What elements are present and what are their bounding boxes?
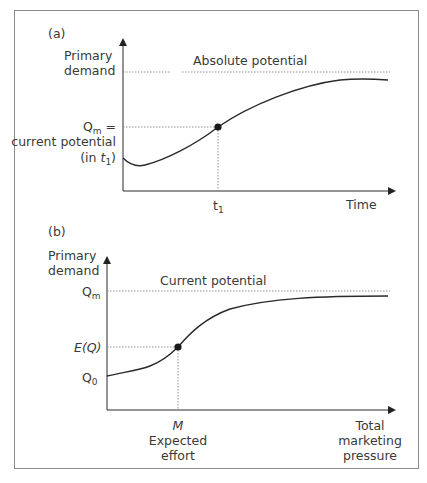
x-label-total: Total [330,418,410,433]
current-potential-desc: current potential [11,134,116,149]
q0-axis-label: Q0 [82,370,98,385]
panel-a-y-label-line1: Primary [64,48,112,63]
expected-label: Expected [143,433,213,448]
in-t1-desc: (in t1) [80,150,116,165]
panel-a-y-label-line2: demand [64,63,115,78]
t1-axis-label: t1 [213,198,224,213]
x-label-marketing: marketing [330,433,410,448]
panel-a-demand-curve [123,79,388,166]
absolute-potential-label: Absolute potential [193,53,307,68]
expected-effort-point [174,343,181,350]
qm-equals-label: Qm = [83,119,116,134]
eq-axis-label: E(Q) [74,340,102,355]
qm-axis-label: Qm [82,284,101,299]
time-axis-label: Time [346,197,377,212]
t1-point [214,123,221,130]
panel-a-tag: (a) [48,26,65,41]
panel-b-response-curve [107,296,388,376]
current-potential-label: Current potential [160,273,267,288]
effort-label: effort [143,448,213,463]
panel-b-y-label-line2: demand [48,263,99,278]
x-label-pressure: pressure [330,448,410,463]
m-axis-label: M [158,418,198,433]
panel-b-y-label-line1: Primary [48,248,96,263]
panel-b-tag: (b) [48,224,66,239]
